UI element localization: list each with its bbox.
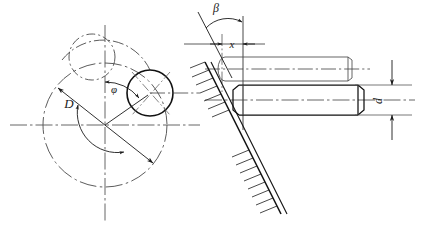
- roller-travel-arc: [62, 40, 150, 70]
- beta-reference-line: [198, 12, 232, 78]
- roller-circle-phantom: [69, 34, 115, 80]
- label-offset-x: x: [229, 38, 235, 50]
- label-angle-beta: β: [212, 1, 219, 15]
- right-view-group: β x: [184, 1, 415, 214]
- left-view-group: D φ: [10, 25, 200, 222]
- label-angle-phi: φ: [111, 83, 117, 95]
- drawing-svg: D φ β x: [0, 0, 423, 232]
- angle-beta-arc: [206, 18, 242, 28]
- crank-radius-line: [105, 95, 148, 125]
- label-diameter-pin: d: [371, 97, 385, 104]
- angle-auxiliary-arc: [77, 105, 124, 153]
- label-diameter-large: D: [63, 96, 74, 111]
- technical-drawing-canvas: D φ β x: [0, 0, 423, 232]
